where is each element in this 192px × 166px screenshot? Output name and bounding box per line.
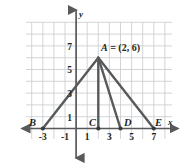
point-b-dot	[41, 126, 45, 130]
x-axis-label: x	[167, 117, 173, 127]
point-d-label: D	[123, 117, 132, 128]
point-a-coords: = (2, 6)	[108, 42, 140, 54]
y-tick-3: 3	[67, 89, 72, 99]
x-tick-5: 5	[129, 132, 134, 142]
x-tick-neg1: -1	[61, 132, 69, 142]
y-tick-7: 7	[67, 42, 72, 52]
point-c-dot	[96, 126, 100, 130]
point-a-annotation: A = (2, 6)	[100, 42, 140, 54]
x-tick-neg3: -3	[39, 132, 47, 142]
point-d-dot	[118, 126, 122, 130]
x-tick-3: 3	[107, 132, 112, 142]
graph-canvas: y x -3 -1 1 3 5 7 1 3 5 7 B C D E A = (2…	[0, 0, 192, 166]
coordinate-plane-figure: y x -3 -1 1 3 5 7 1 3 5 7 B C D E A = (2…	[0, 0, 192, 166]
y-tick-labels: 1 3 5 7	[67, 42, 72, 123]
y-axis-label: y	[78, 9, 84, 19]
x-tick-labels: -3 -1 1 3 5 7	[39, 132, 157, 142]
y-tick-1: 1	[67, 113, 72, 123]
point-e-label: E	[154, 117, 162, 128]
point-c-label: C	[89, 117, 97, 128]
point-b-label: B	[28, 117, 36, 128]
x-tick-7: 7	[151, 132, 156, 142]
y-tick-5: 5	[67, 65, 72, 75]
x-tick-1: 1	[85, 132, 90, 142]
